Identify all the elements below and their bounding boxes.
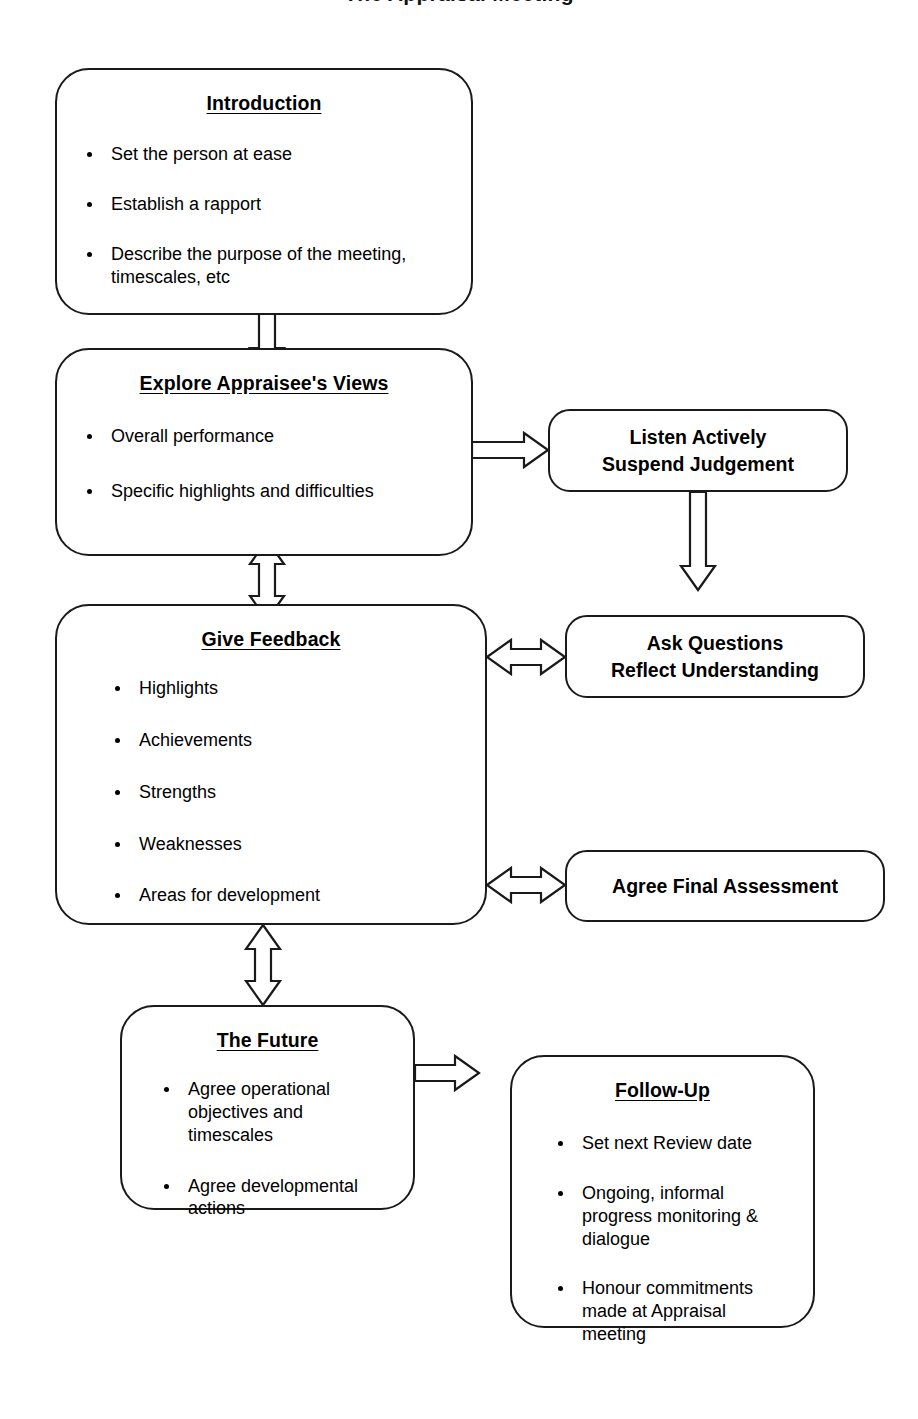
- node-explore-title: Explore Appraisee's Views: [71, 372, 457, 395]
- arrow-feedback-ask-double: [487, 640, 565, 674]
- list-item: Agree operational objectives and timesca…: [148, 1078, 401, 1147]
- node-ask-lines: Ask Questions Reflect Understanding: [567, 617, 863, 696]
- node-future-bullets: Agree operational objectives and timesca…: [134, 1078, 401, 1220]
- list-item: Establish a rapport: [71, 193, 457, 216]
- arrow-feedback-assessment-double: [487, 868, 565, 902]
- node-explore-bullets: Overall performance Specific highlights …: [71, 425, 457, 503]
- list-item: Weaknesses: [99, 833, 471, 856]
- arrow-future-to-followup: [415, 1056, 479, 1090]
- node-listen-lines: Listen Actively Suspend Judgement: [550, 411, 846, 490]
- node-the-future[interactable]: The Future Agree operational objectives …: [120, 1005, 415, 1210]
- arrow-explore-to-listen: [472, 433, 548, 467]
- list-item: Set next Review date: [542, 1132, 801, 1155]
- flowchart-canvas: The Appraisal Meeting Introduction Set t…: [0, 0, 918, 1419]
- node-feedback-bullets: Highlights Achievements Strengths Weakne…: [71, 677, 471, 907]
- node-followup-bullets: Set next Review date Ongoing, informal p…: [524, 1132, 801, 1346]
- node-introduction-title: Introduction: [71, 92, 457, 115]
- node-agree-final-assessment[interactable]: Agree Final Assessment: [565, 850, 885, 922]
- list-item: Set the person at ease: [71, 143, 457, 166]
- list-item: Areas for development: [99, 884, 471, 907]
- page-title: The Appraisal Meeting: [0, 0, 918, 6]
- node-followup-title: Follow-Up: [524, 1079, 801, 1102]
- node-feedback-title: Give Feedback: [71, 628, 471, 651]
- node-assessment-lines: Agree Final Assessment: [567, 852, 883, 920]
- list-item: Ongoing, informal progress monitoring & …: [542, 1182, 801, 1251]
- list-item: Strengths: [99, 781, 471, 804]
- arrow-listen-to-ask: [681, 492, 715, 590]
- node-ask-line-1: Ask Questions: [647, 630, 784, 657]
- node-introduction-bullets: Set the person at ease Establish a rappo…: [71, 143, 457, 288]
- node-listen-line-2: Suspend Judgement: [602, 451, 794, 478]
- node-follow-up[interactable]: Follow-Up Set next Review date Ongoing, …: [510, 1055, 815, 1328]
- list-item: Highlights: [99, 677, 471, 700]
- list-item: Overall performance: [71, 425, 457, 448]
- list-item: Honour commitments made at Appraisal mee…: [542, 1277, 801, 1346]
- node-assessment-line-1: Agree Final Assessment: [612, 873, 838, 900]
- list-item: Agree developmental actions: [148, 1175, 401, 1221]
- list-item: Achievements: [99, 729, 471, 752]
- node-ask-line-2: Reflect Understanding: [611, 657, 819, 684]
- node-listen-line-1: Listen Actively: [630, 424, 767, 451]
- node-introduction[interactable]: Introduction Set the person at ease Esta…: [55, 68, 473, 315]
- list-item: Describe the purpose of the meeting, tim…: [71, 243, 457, 289]
- node-listen-actively[interactable]: Listen Actively Suspend Judgement: [548, 409, 848, 492]
- list-item: Specific highlights and difficulties: [71, 480, 457, 503]
- node-ask-questions[interactable]: Ask Questions Reflect Understanding: [565, 615, 865, 698]
- arrow-feedback-future-double: [246, 925, 280, 1005]
- node-future-title: The Future: [134, 1029, 401, 1052]
- node-give-feedback[interactable]: Give Feedback Highlights Achievements St…: [55, 604, 487, 925]
- node-explore-appraisees-views[interactable]: Explore Appraisee's Views Overall perfor…: [55, 348, 473, 556]
